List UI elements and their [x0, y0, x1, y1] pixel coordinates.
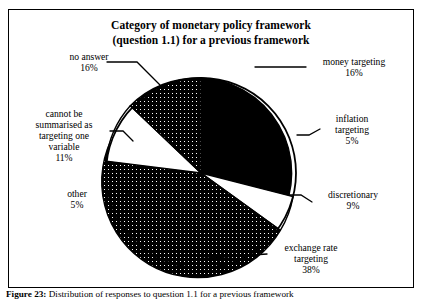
pie-label-discretionary-name: discretionary	[310, 189, 396, 200]
figure-caption-text: Distribution of responses to question 1.…	[49, 289, 294, 299]
pie-label-exchange-rate-targeting-line-1: exchange rate	[265, 242, 357, 253]
pie-label-other: other 5%	[49, 188, 105, 210]
pie-label-inflation-targeting-value: 5%	[314, 135, 390, 146]
figure-caption-number: Figure 23:	[6, 289, 46, 299]
pie-label-exchange-rate-targeting: exchange rate targeting 38%	[265, 242, 357, 275]
pie-label-other-name: other	[49, 188, 105, 199]
pie-label-cannot-be-summarised: cannot be summarised as targeting one va…	[19, 108, 109, 163]
pie-label-discretionary-value: 9%	[310, 200, 396, 211]
chart-frame: Category of monetary policy framework (q…	[8, 9, 414, 288]
pie-label-cannot-be-summarised-line-1: cannot be	[19, 108, 109, 119]
pie-chart-area: no answer 16% cannot be summarised as ta…	[9, 10, 415, 289]
pie-label-cannot-be-summarised-value: 11%	[19, 152, 109, 163]
pie-label-money-targeting-value: 16%	[306, 67, 402, 78]
figure-root: Category of monetary policy framework (q…	[0, 0, 424, 301]
pie-label-money-targeting-name: money targeting	[306, 56, 402, 67]
pie-label-inflation-targeting-line-1: inflation	[314, 113, 390, 124]
pie-label-inflation-targeting-line-2: targeting	[314, 124, 390, 135]
pie-label-inflation-targeting: inflation targeting 5%	[314, 113, 390, 146]
pie-label-cannot-be-summarised-line-2: summarised as	[19, 119, 109, 130]
pie-label-money-targeting: money targeting 16%	[306, 56, 402, 78]
pie-label-discretionary: discretionary 9%	[310, 189, 396, 211]
pie-label-cannot-be-summarised-line-3: targeting one	[19, 130, 109, 141]
pie-label-no-answer-name: no answer	[51, 51, 127, 62]
pie-label-exchange-rate-targeting-value: 38%	[265, 264, 357, 275]
pie-label-cannot-be-summarised-line-4: variable	[19, 141, 109, 152]
pie-label-no-answer-value: 16%	[51, 62, 127, 73]
pie-label-no-answer: no answer 16%	[51, 51, 127, 73]
pie-label-exchange-rate-targeting-line-2: targeting	[265, 253, 357, 264]
figure-caption: Figure 23: Distribution of responses to …	[6, 289, 418, 300]
pie-label-other-value: 5%	[49, 199, 105, 210]
